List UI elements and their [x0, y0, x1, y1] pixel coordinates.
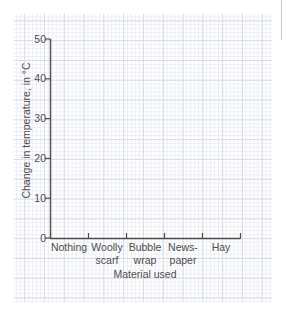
- worksheet-page: 50 40 30 20 10 0 Change in temperature, …: [0, 0, 287, 325]
- x-category-line2: scarf: [88, 254, 126, 267]
- x-category-line1: Bubble: [126, 241, 164, 254]
- x-category-line1: Nothing: [50, 241, 88, 254]
- x-axis-title: Material used: [50, 268, 240, 280]
- page-column-divider: [281, 0, 282, 40]
- y-axis-title: Change in temperature, in °C: [21, 31, 32, 231]
- x-category-line2: paper: [164, 254, 202, 267]
- x-category-line1: News-: [164, 241, 202, 254]
- y-tick-label: 0: [26, 233, 46, 244]
- x-category-line1: Hay: [202, 241, 240, 254]
- x-category-line2: wrap: [126, 254, 164, 267]
- x-category-line1: Woolly: [88, 241, 126, 254]
